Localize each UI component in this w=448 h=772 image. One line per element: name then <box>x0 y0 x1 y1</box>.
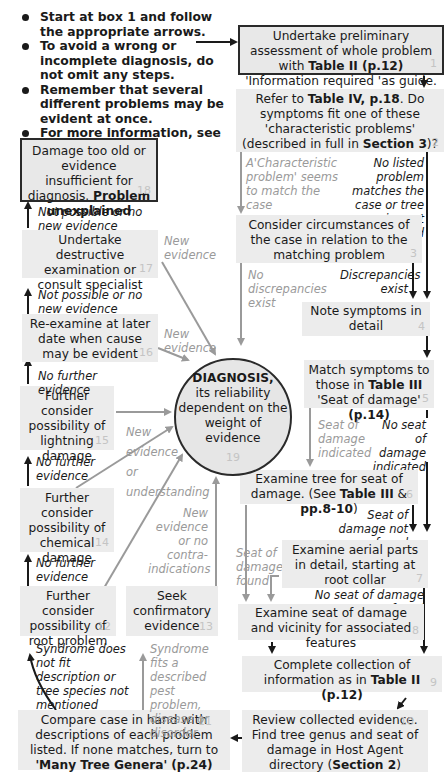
label-characteristic-match: A'Characteristic problem' seems to match… <box>246 156 338 212</box>
note-item: To avoid a wrong or incomplete diagnosis… <box>22 39 232 83</box>
box-5-match-symptoms: Match symptoms to those in Table III 'Se… <box>304 360 434 408</box>
bullet-icon <box>22 87 29 94</box>
label-new-evidence-16: New evidence <box>164 327 210 355</box>
label-syndrome-not-fit: Syndrome does not fit description or tre… <box>36 642 132 712</box>
label-no-seat-indicated: No seat of damage indicated <box>370 418 426 474</box>
note-item: Start at box 1 and follow the appropriat… <box>22 10 232 39</box>
bullet-icon <box>22 130 29 137</box>
instruction-notes: Start at box 1 and follow the appropriat… <box>22 10 232 155</box>
box-14-chemical-damage: Further consider possibility of chemical… <box>20 488 114 552</box>
label-syndrome-fits: Syndrome fits a described pest problem, … <box>150 642 230 740</box>
box-4-note-symptoms: Note symptoms in detail 4 <box>302 302 430 336</box>
box-8-examine-seat: Examine seat of damage and vicinity for … <box>238 604 424 640</box>
bullet-icon <box>22 43 29 50</box>
label-seat-indicated: Seat of damage indicated <box>318 418 370 460</box>
box-19-diagnosis: DIAGNOSIS, its reliability dependent on … <box>174 358 292 476</box>
box-1-preliminary-assessment: Undertake preliminary assessment of whol… <box>238 25 444 75</box>
box-3-consider-circumstances: Consider circumstances of the case in re… <box>236 215 422 263</box>
box-9-complete-collection: Complete collection of information as in… <box>242 656 442 692</box>
box-6-examine-tree: Examine tree for seat of damage. (See Ta… <box>240 470 418 504</box>
box-2-characteristic-problems: Refer to Table IV, p.18. Do symptoms fit… <box>236 89 444 152</box>
bullet-icon <box>22 14 29 21</box>
box-13-seek-confirmatory: Seek confirmatory evidence 13 <box>126 586 218 636</box>
box-12-root-problem: Further consider possibility of root pro… <box>20 586 116 636</box>
label-discrepancies-exist: Discrepancies exist <box>340 268 408 296</box>
label-seat-found: Seat of damage found <box>236 546 280 588</box>
box-16-re-examine: Re-examine at later date when cause may … <box>22 314 158 362</box>
box-10-review-evidence: Review collected evidence. Find tree gen… <box>242 710 428 772</box>
label-no-further-evidence-15: No further evidence <box>38 369 98 397</box>
label-new-evidence-no-contra: New evidence or no contra-indications <box>148 506 208 576</box>
box-17-destructive-examination: Undertake destructive examination or con… <box>22 230 158 278</box>
box-7-examine-aerial-parts: Examine aerial parts in detail, starting… <box>282 540 428 588</box>
box-18-problem-unexplained: Damage too old or evidence insufficient … <box>20 138 158 202</box>
label-new-evidence-17: New evidence <box>164 234 210 262</box>
note-item: Remember that several different problems… <box>22 83 232 127</box>
